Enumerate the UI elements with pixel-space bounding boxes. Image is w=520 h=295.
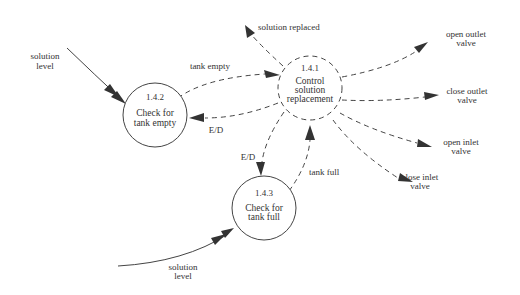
arrowhead-icon xyxy=(264,70,280,78)
flow-label: solution replaced xyxy=(258,22,320,32)
flow-label: valve xyxy=(451,146,471,156)
arrowhead-icon xyxy=(417,139,432,147)
process-label: tank empty xyxy=(134,118,177,128)
flow-label: valve xyxy=(457,95,477,105)
flow-label: E/D xyxy=(209,125,224,135)
process-label: Check for xyxy=(136,108,175,118)
arrowhead-icon xyxy=(305,125,315,140)
flow-tank-full: tank full xyxy=(289,125,340,191)
flow-ed-to-1-4-2: E/D xyxy=(189,103,278,135)
arrowhead-icon xyxy=(245,25,255,38)
flow-label: tank full xyxy=(309,167,340,177)
flow-close-inlet-valve: close inlet valve xyxy=(333,120,439,191)
process-1-4-3[interactable]: 1.4.3 Check for tank full xyxy=(232,176,296,240)
process-1-4-1[interactable]: 1.4.1 Control solution replacement xyxy=(278,56,342,120)
flow-label: E/D xyxy=(241,152,256,162)
flow-tank-empty: tank empty xyxy=(178,61,280,98)
process-1-4-2[interactable]: 1.4.2 Check for tank empty xyxy=(123,83,187,147)
flow-label: valve xyxy=(456,38,476,48)
flow-solution-level-to-1-4-2: solution level xyxy=(30,48,126,104)
process-label: tank full xyxy=(248,212,280,222)
arrowhead-icon xyxy=(414,42,428,53)
arrowhead-icon xyxy=(189,113,204,122)
process-label: replacement xyxy=(287,94,334,104)
flow-close-outlet-valve: close outlet valve xyxy=(342,86,488,105)
flow-ed-to-1-4-3: E/D xyxy=(241,112,284,176)
arrowhead-icon xyxy=(424,92,439,100)
flow-label: tank empty xyxy=(190,61,231,71)
flow-label: solution xyxy=(30,51,60,61)
process-number: 1.4.3 xyxy=(255,188,274,198)
process-number: 1.4.2 xyxy=(146,92,164,102)
flow-label: level xyxy=(174,271,192,281)
data-flow-diagram: solution level tank empty E/D solution r… xyxy=(0,0,520,295)
flow-solution-level-to-1-4-3: solution level xyxy=(118,228,234,281)
flow-open-outlet-valve: open outlet valve xyxy=(342,29,487,77)
arrowhead-icon xyxy=(256,162,265,176)
arrowhead-icon xyxy=(211,234,226,245)
flow-label: level xyxy=(36,61,54,71)
process-number: 1.4.1 xyxy=(301,63,319,73)
flow-label: valve xyxy=(410,181,430,191)
